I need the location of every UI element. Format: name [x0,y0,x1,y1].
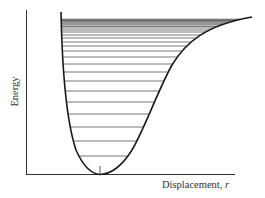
morse-potential-diagram [0,0,265,198]
x-axis-label: Displacement, r [162,179,229,190]
y-axis-label: Energy [9,72,20,112]
x-axis-label-text: Displacement, [162,179,222,190]
vibrational-energy-levels [62,19,241,156]
x-axis-variable: r [225,179,229,190]
potential-energy-curve [61,12,252,175]
